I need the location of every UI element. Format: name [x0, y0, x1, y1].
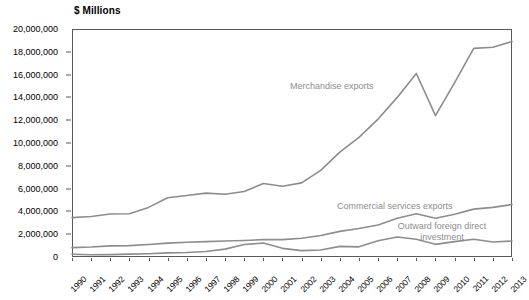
x-axis-tick-mark	[282, 258, 283, 261]
y-axis-tick-label: 14,000,000	[13, 92, 58, 102]
y-axis-tick-mark	[66, 165, 71, 166]
x-axis-tick-label: 1995	[164, 274, 184, 294]
x-axis-tick-label: 2010	[451, 274, 471, 294]
x-axis-tick-mark	[91, 258, 92, 261]
x-axis-tick-mark	[378, 258, 379, 261]
x-axis-tick-label: 1998	[221, 274, 241, 294]
x-axis-tick-label: 2011	[470, 274, 490, 294]
x-axis-tick-mark	[149, 258, 150, 261]
x-axis-tick-label: 2003	[317, 274, 337, 294]
x-axis-tick-label: 1990	[68, 274, 88, 294]
x-axis-tick-mark	[474, 258, 475, 261]
x-axis-tick-mark	[110, 258, 111, 261]
y-axis-tick-label: 0	[53, 252, 58, 262]
y-axis-tick-labels: 20,000,00018,000,00016,000,00014,000,000…	[0, 29, 66, 257]
annotation-outward-fdi-line1: Outward foreign direct	[398, 221, 487, 231]
x-axis-tick-label: 2004	[336, 274, 356, 294]
x-axis-tick-label: 2012	[489, 274, 509, 294]
x-axis-tick-mark	[512, 258, 513, 261]
series-line	[72, 42, 512, 218]
x-axis-tick-label: 2008	[413, 274, 433, 294]
x-axis-tick-label: 1993	[126, 274, 146, 294]
y-axis-tick-mark	[66, 234, 71, 235]
y-axis-tick-mark	[66, 188, 71, 189]
axis-unit-title: $ Millions	[74, 5, 121, 16]
annotation-outward-fdi-line2: investment	[420, 232, 464, 242]
y-axis-tick-mark	[66, 143, 71, 144]
x-axis-tick-labels: 1990199119921993199419951996199719981999…	[72, 258, 512, 300]
y-axis-tick-mark	[66, 211, 71, 212]
x-axis-tick-label: 2002	[298, 274, 318, 294]
x-axis-tick-label: 2013	[508, 274, 528, 294]
x-axis-tick-mark	[168, 258, 169, 261]
y-axis-tick-label: 4,000,000	[18, 206, 58, 216]
x-axis-tick-mark	[187, 258, 188, 261]
x-axis-tick-mark	[435, 258, 436, 261]
x-axis-tick-mark	[455, 258, 456, 261]
y-axis-tick-label: 20,000,000	[13, 24, 58, 34]
y-axis-tick-label: 2,000,000	[18, 229, 58, 239]
x-axis-tick-label: 2006	[374, 274, 394, 294]
x-axis-tick-mark	[340, 258, 341, 261]
x-axis-tick-mark	[321, 258, 322, 261]
y-axis-tick-label: 18,000,000	[13, 47, 58, 57]
x-axis-tick-mark	[359, 258, 360, 261]
x-axis-tick-label: 1994	[145, 274, 165, 294]
x-axis-tick-label: 1991	[87, 274, 107, 294]
y-axis-tick-label: 16,000,000	[13, 70, 58, 80]
x-axis-tick-mark	[206, 258, 207, 261]
y-axis-tick-label: 12,000,000	[13, 115, 58, 125]
x-axis-tick-label: 2005	[355, 274, 375, 294]
x-axis-tick-label: 1992	[107, 274, 127, 294]
y-axis-tick-mark	[66, 51, 71, 52]
x-axis-tick-label: 2007	[394, 274, 414, 294]
annotation-commercial-services-exports: Commercial services exports	[337, 201, 453, 212]
y-axis-tick-label: 6,000,000	[18, 184, 58, 194]
x-axis-tick-mark	[129, 258, 130, 261]
y-axis-tick-mark	[66, 120, 71, 121]
y-axis-tick-label: 8,000,000	[18, 161, 58, 171]
annotation-merchandise-exports: Merchandise exports	[290, 81, 374, 92]
x-axis-tick-label: 1999	[241, 274, 261, 294]
x-axis-tick-mark	[416, 258, 417, 261]
plot-area: Merchandise exports Commercial services …	[72, 29, 512, 257]
x-axis-tick-label: 1997	[202, 274, 222, 294]
x-axis-tick-label: 2000	[260, 274, 280, 294]
x-axis-tick-mark	[263, 258, 264, 261]
x-axis-tick-label: 2001	[279, 274, 299, 294]
y-axis-tick-mark	[66, 74, 71, 75]
y-axis-tick-label: 10,000,000	[13, 138, 58, 148]
x-axis-tick-mark	[493, 258, 494, 261]
y-axis-tick-mark	[66, 97, 71, 98]
annotation-outward-fdi: Outward foreign direct investment	[382, 221, 502, 243]
x-axis-tick-mark	[397, 258, 398, 261]
x-axis-tick-label: 1996	[183, 274, 203, 294]
x-axis-tick-mark	[244, 258, 245, 261]
x-axis-tick-mark	[225, 258, 226, 261]
x-axis-tick-mark	[302, 258, 303, 261]
x-axis-tick-label: 2009	[432, 274, 452, 294]
x-axis-tick-mark	[72, 258, 73, 261]
